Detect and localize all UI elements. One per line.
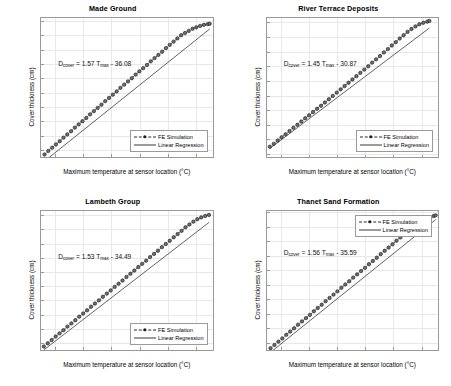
data-point-marker: [386, 246, 389, 249]
legend-marker-dotted-circle-icon: [360, 134, 382, 140]
subplot-title: River Terrace Deposits: [226, 4, 451, 13]
data-point-marker: [354, 74, 357, 77]
data-point-marker: [202, 23, 205, 26]
plot-area: 2426283032342468101214161820Dcover = 1.5…: [266, 210, 440, 351]
regression-equation: Dcover = 1.56 Tmax - 35.59: [284, 249, 357, 257]
data-point-marker: [81, 312, 84, 315]
data-point-marker: [319, 104, 322, 107]
data-point-marker: [96, 106, 99, 109]
data-point-marker: [338, 88, 341, 91]
data-point-marker: [66, 325, 69, 328]
data-point-marker: [172, 40, 175, 43]
legend-item-linear-regression[interactable]: Linear Regression: [359, 226, 428, 234]
data-point-marker: [394, 239, 397, 242]
legend-label: Linear Regression: [383, 226, 428, 234]
legend-label: FE Simulation: [383, 218, 418, 226]
legend-label: Linear Regression: [384, 141, 429, 149]
data-point-marker: [346, 81, 349, 84]
data-point-marker: [386, 47, 389, 50]
regression-equation: Dcover = 1.53 Tmax - 34.49: [58, 253, 131, 261]
legend-item-fe-simulation[interactable]: FE Simulation: [359, 218, 428, 226]
data-point-marker: [111, 93, 114, 96]
data-point-marker: [126, 80, 129, 83]
x-axis-label: Maximum temperature at sensor location (…: [40, 361, 214, 368]
data-point-marker: [296, 323, 299, 326]
data-point-marker: [183, 31, 186, 34]
legend-item-linear-regression[interactable]: Linear Regression: [134, 141, 203, 149]
data-point-marker: [101, 295, 104, 298]
data-point-marker: [160, 50, 163, 53]
data-point-marker: [123, 83, 126, 86]
y-axis-label: Cover thickness (cm): [254, 260, 261, 319]
data-point-marker: [308, 313, 311, 316]
data-point-marker: [134, 73, 137, 76]
data-point-marker: [275, 139, 278, 142]
data-point-marker: [370, 61, 373, 64]
data-point-marker: [192, 220, 195, 223]
data-point-marker: [421, 21, 424, 24]
data-point-marker: [73, 126, 76, 129]
data-point-marker: [409, 27, 412, 30]
data-point-marker: [366, 65, 369, 68]
data-point-marker: [268, 145, 271, 148]
legend-label: FE Simulation: [158, 326, 193, 334]
legend-item-linear-regression[interactable]: Linear Regression: [360, 141, 429, 149]
data-point-marker: [304, 316, 307, 319]
data-point-marker: [382, 249, 385, 252]
data-point-marker: [88, 113, 91, 116]
subplot-river-terrace-deposits: River Terrace Deposits Cover thickness (…: [226, 0, 451, 193]
data-point-marker: [375, 256, 378, 259]
data-point-marker: [413, 25, 416, 28]
data-point-marker: [327, 98, 330, 101]
data-point-marker: [46, 342, 49, 345]
data-point-marker: [335, 91, 338, 94]
legend-marker-solid-line-icon: [134, 142, 156, 148]
data-point-marker: [141, 262, 144, 265]
legend-item-linear-regression[interactable]: Linear Regression: [134, 334, 203, 342]
data-point-marker: [283, 133, 286, 136]
data-point-marker: [191, 27, 194, 30]
data-point-marker: [358, 71, 361, 74]
data-point-marker: [268, 346, 271, 349]
data-point-marker: [100, 103, 103, 106]
data-point-marker: [58, 332, 61, 335]
data-point-marker: [284, 333, 287, 336]
data-point-marker: [42, 345, 45, 348]
legend-label: Linear Regression: [158, 334, 203, 342]
data-point-marker: [148, 255, 151, 258]
legend-item-fe-simulation[interactable]: FE Simulation: [360, 133, 429, 141]
data-point-marker: [168, 239, 171, 242]
data-point-marker: [115, 90, 118, 93]
data-point-marker: [164, 46, 167, 49]
subplot-title: Lambeth Group: [0, 197, 226, 206]
data-point-marker: [172, 236, 175, 239]
data-point-marker: [362, 68, 365, 71]
data-point-marker: [54, 335, 57, 338]
data-point-marker: [138, 70, 141, 73]
data-point-marker: [307, 114, 310, 117]
y-axis-label: Cover thickness (cm): [28, 260, 35, 319]
data-point-marker: [382, 51, 385, 54]
data-point-marker: [113, 285, 116, 288]
x-axis-label: Maximum temperature at sensor location (…: [40, 168, 214, 175]
data-point-marker: [331, 293, 334, 296]
data-point-marker: [374, 58, 377, 61]
data-point-marker: [43, 153, 46, 156]
data-point-marker: [47, 149, 50, 152]
legend-item-fe-simulation[interactable]: FE Simulation: [134, 133, 203, 141]
legend: FE SimulationLinear Regression: [356, 130, 433, 152]
data-point-marker: [187, 29, 190, 32]
data-point-marker: [107, 96, 110, 99]
data-point-marker: [125, 275, 128, 278]
data-point-marker: [287, 129, 290, 132]
data-point-marker: [121, 279, 124, 282]
data-point-marker: [66, 133, 69, 136]
legend-marker-dotted-circle-icon: [134, 327, 156, 333]
legend-item-fe-simulation[interactable]: FE Simulation: [134, 326, 203, 334]
data-point-marker: [335, 290, 338, 293]
data-point-marker: [77, 123, 80, 126]
data-point-marker: [350, 78, 353, 81]
data-point-marker: [288, 330, 291, 333]
data-point-marker: [291, 126, 294, 129]
data-point-marker: [184, 226, 187, 229]
